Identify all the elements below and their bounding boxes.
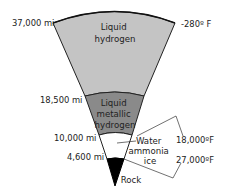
radius-37000: 37,000 mi <box>12 18 54 28</box>
callout-18000 <box>137 116 183 136</box>
radius-18500: 18,500 mi <box>40 95 82 105</box>
label-liquid-metallic-hydrogen: Liquid metallic hydrogen <box>95 98 136 130</box>
temp-27000: 27,000ºF <box>176 155 214 165</box>
label-water-ammonia-ice: Water ammonia ice <box>128 136 171 166</box>
jupiter-interior-diagram: Liquid hydrogen Liquid metallic hydrogen… <box>0 0 227 195</box>
radius-10000: 10,000 mi <box>54 133 96 143</box>
label-rock: Rock <box>121 175 142 185</box>
radius-4600: 4,600 mi <box>67 152 104 162</box>
temp-18000: 18,000ºF <box>176 135 214 145</box>
temp-surface: -280º F <box>181 19 212 29</box>
